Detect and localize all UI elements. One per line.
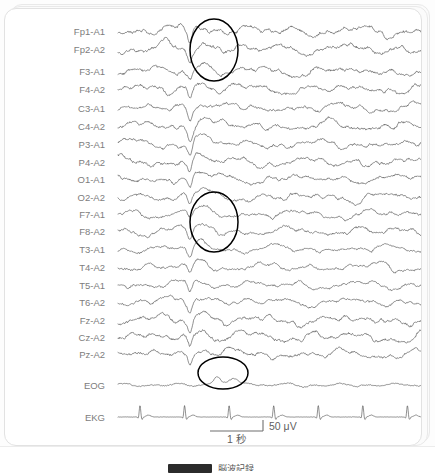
trace-pz-a2	[118, 347, 421, 365]
eeg-plot: Fp1-A1Fp2-A2F3-A1F4-A2C3-A1C4-A2P3-A1P4-…	[5, 9, 421, 445]
trace-f3-a1	[118, 62, 421, 79]
channel-label-p3-a1: P3-A1	[79, 139, 105, 150]
channel-label-pz-a2: Pz-A2	[79, 349, 105, 360]
trace-t3-a1	[118, 239, 421, 257]
trace-o1-a1	[118, 172, 421, 188]
trace-t6-a2	[118, 295, 421, 313]
trace-c4-a2	[118, 117, 421, 142]
trace-fp2-a2	[118, 37, 421, 63]
scale-bar-time-label: 1 秒	[227, 433, 247, 445]
channel-label-t5-a1: T5-A1	[79, 280, 105, 291]
channel-label-cz-a2: Cz-A2	[79, 332, 105, 343]
channel-label-p4-a2: P4-A2	[79, 157, 105, 168]
trace-o2-a2	[118, 187, 421, 205]
trace-f8-a2	[118, 223, 421, 239]
channel-label-t3-a1: T3-A1	[79, 244, 105, 255]
trace-f4-a2	[118, 83, 421, 98]
trace-t4-a2	[118, 259, 421, 273]
channel-label-t6-a2: T6-A2	[79, 297, 105, 308]
channel-label-f3-a1: F3-A1	[79, 66, 105, 77]
trace-t5-a1	[118, 280, 421, 292]
trace-f7-a1	[118, 205, 421, 221]
trace-ekg	[118, 406, 421, 420]
channel-label-o1-a1: O1-A1	[78, 174, 105, 185]
channel-label-f8-a2: F8-A2	[79, 226, 105, 237]
channel-label-fp1-a1: Fp1-A1	[74, 26, 105, 37]
channel-label-f7-a1: F7-A1	[79, 209, 105, 220]
trace-p4-a2	[118, 153, 421, 172]
trace-c3-a1	[118, 101, 421, 121]
channel-label-fp2-a2: Fp2-A2	[74, 44, 105, 55]
channel-label-c4-a2: C4-A2	[78, 121, 105, 132]
annotation-ellipse-temporal-discharge	[190, 192, 238, 252]
channel-label-ekg: EKG	[85, 412, 105, 423]
channel-label-f4-a2: F4-A2	[79, 84, 105, 95]
annotation-ellipse-eog-deflection	[198, 357, 248, 389]
channel-label-eog: EOG	[84, 380, 105, 391]
trace-p3-a1	[118, 134, 421, 155]
trace-fz-a2	[118, 311, 421, 333]
scale-bar	[210, 420, 263, 431]
annotation-ellipse-frontal-discharge	[190, 19, 238, 81]
trace-eog	[118, 377, 421, 388]
banner-chip-icon	[168, 464, 212, 473]
channel-label-fz-a2: Fz-A2	[80, 315, 105, 326]
scale-bar-amplitude-label: 50 μV	[269, 420, 297, 432]
channel-label-o2-a2: O2-A2	[78, 192, 105, 203]
banner-label: 脳波記録	[218, 462, 254, 471]
trace-cz-a2	[118, 330, 421, 347]
channel-label-c3-a1: C3-A1	[78, 103, 105, 114]
channel-label-t4-a2: T4-A2	[79, 262, 105, 273]
eeg-panel: Fp1-A1Fp2-A2F3-A1F4-A2C3-A1C4-A2P3-A1P4-…	[4, 8, 422, 446]
